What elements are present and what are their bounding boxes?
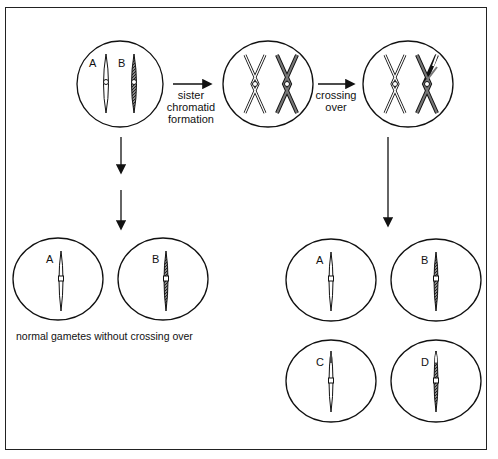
cell-sister-chromatids: [223, 41, 313, 127]
cell-homologs: [77, 41, 163, 127]
gamete-right-C: [286, 340, 376, 422]
gamete-right-A: [286, 239, 376, 321]
arrow1-line3: formation: [163, 113, 219, 125]
label-C-right: C: [316, 356, 324, 368]
label-B-top: B: [118, 57, 125, 69]
gamete-left-B: [118, 238, 208, 320]
cell-crossing-over: [363, 41, 453, 127]
gamete-left-A: [13, 238, 103, 320]
diagram-canvas: [0, 0, 498, 459]
arrow1-line1: sister: [163, 89, 219, 101]
arrow1-line2: chromatid: [163, 101, 219, 113]
arrow2-label: crossing over: [313, 89, 359, 113]
gamete-right-D: [391, 340, 481, 422]
label-A-top: A: [89, 57, 96, 69]
label-B-left: B: [152, 253, 159, 265]
label-A-left: A: [46, 253, 53, 265]
label-D-right: D: [421, 356, 429, 368]
caption-normal-gametes: normal gametes without crossing over: [16, 330, 226, 342]
label-A-right: A: [316, 254, 323, 266]
arrow2-line2: over: [313, 101, 359, 113]
arrow2-line1: crossing: [313, 89, 359, 101]
arrow1-label: sister chromatid formation: [163, 89, 219, 125]
label-B-right: B: [421, 254, 428, 266]
gamete-right-B: [391, 239, 481, 321]
